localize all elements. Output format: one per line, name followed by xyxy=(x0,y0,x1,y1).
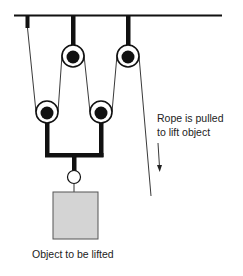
object-label: Object to be lifted xyxy=(32,247,114,261)
hook-ring xyxy=(68,171,81,184)
object-box xyxy=(53,192,98,239)
fixed-pulley-1 xyxy=(62,45,84,67)
moving-pulley-2 xyxy=(90,101,112,123)
fixed-pulley-2 xyxy=(117,45,139,67)
rope-pulled-label-line1: Rope is pulled xyxy=(157,111,224,125)
rope-pulled-label-line2: to lift object xyxy=(157,125,210,139)
pull-arrow-icon xyxy=(157,143,162,172)
moving-pulley-1 xyxy=(36,101,58,123)
rope-anchor xyxy=(26,15,30,28)
